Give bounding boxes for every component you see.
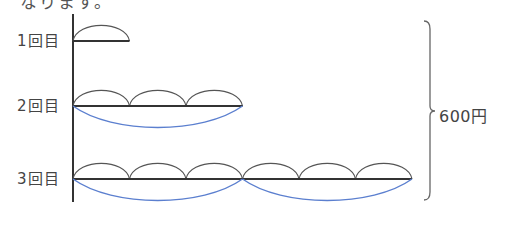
total-brace: [424, 21, 435, 200]
unit-arc: [73, 90, 130, 106]
total-label: 600円: [439, 103, 488, 127]
group-arc: [73, 179, 243, 200]
row-label-2: 2回目: [17, 98, 60, 114]
row-label-3: 3回目: [17, 171, 60, 187]
unit-arc: [73, 163, 130, 179]
unit-arc: [186, 163, 243, 179]
unit-arc: [299, 163, 356, 179]
unit-arc: [356, 163, 413, 179]
group-arc: [243, 179, 413, 200]
unit-arc: [243, 163, 300, 179]
unit-arc: [73, 25, 130, 41]
unit-arc: [130, 90, 187, 106]
group-arc: [73, 106, 243, 127]
unit-arc: [130, 163, 187, 179]
unit-arc: [186, 90, 243, 106]
row-label-1: 1回目: [17, 33, 60, 49]
